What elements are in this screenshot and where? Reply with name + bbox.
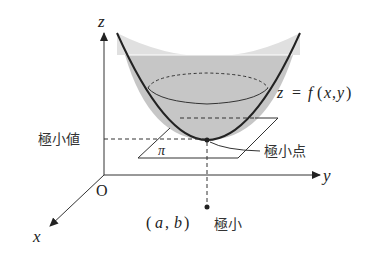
point-ab-close: ) bbox=[184, 214, 189, 232]
eq-z: z bbox=[276, 84, 284, 101]
eq-open: ( bbox=[317, 84, 322, 102]
point-ab-dot bbox=[205, 205, 210, 210]
paraboloid-minimum-diagram: π z y x O 極小値 極小点 極小 ( a , b ) z = f ( x… bbox=[0, 0, 392, 259]
point-ab-open: ( bbox=[146, 214, 151, 232]
point-ab-label: ( a , b ) bbox=[146, 214, 189, 232]
origin-label: O bbox=[96, 182, 108, 199]
min-label: 極小 bbox=[214, 216, 242, 232]
eq-x: x bbox=[323, 84, 331, 101]
point-ab-comma: , bbox=[165, 214, 169, 231]
surface-body bbox=[125, 55, 293, 140]
surface-equation-label: z = f ( x , y ) bbox=[276, 84, 351, 102]
min-value-label: 極小値 bbox=[38, 131, 80, 147]
plane-left-edge bbox=[138, 128, 170, 158]
point-ab-b: b bbox=[174, 214, 182, 231]
eq-equals: = bbox=[292, 84, 301, 101]
x-axis-label: x bbox=[32, 227, 41, 246]
y-axis-label: y bbox=[321, 166, 331, 185]
eq-f: f bbox=[308, 84, 315, 102]
eq-comma: , bbox=[332, 84, 336, 101]
plane-label: π bbox=[158, 143, 166, 158]
z-axis-label: z bbox=[97, 12, 105, 31]
eq-y: y bbox=[335, 84, 345, 102]
eq-close: ) bbox=[346, 84, 351, 102]
surface-inner-top bbox=[117, 33, 300, 57]
min-point-label: 極小点 bbox=[264, 143, 306, 159]
point-ab-a: a bbox=[155, 214, 163, 231]
min-point-dot bbox=[205, 138, 210, 143]
